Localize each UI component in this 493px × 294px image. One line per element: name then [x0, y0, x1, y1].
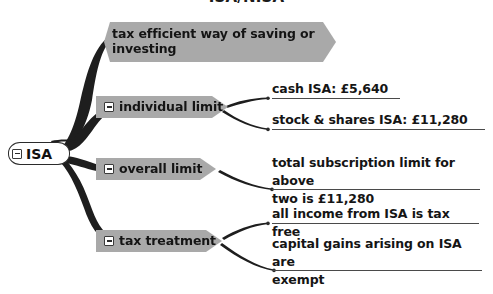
wire-endpoint-income — [266, 222, 270, 226]
branch-node-overall-limit[interactable]: overall limit — [96, 158, 216, 180]
tax-treatment-collapse-toggle-icon[interactable] — [104, 236, 114, 246]
leaf-total-subscription[interactable]: total subscription limit for above two i… — [272, 154, 480, 207]
branch-definition-label: tax efficient way of saving or investing — [112, 27, 336, 57]
wire-tax-to-capital — [220, 243, 274, 271]
leaf-capital-gains-exempt-text: capital gains arising on ISA are exempt — [272, 235, 482, 288]
branch-individual-inner: individual limit — [96, 96, 228, 118]
branch-individual-limit-label: individual limit — [119, 100, 223, 115]
leaf-total-subscription-text: total subscription limit for above two i… — [272, 154, 480, 207]
leaf-capital-gains-exempt[interactable]: capital gains arising on ISA are exempt — [272, 235, 482, 288]
leaf-stock-shares-isa[interactable]: stock & shares ISA: £11,280 — [272, 111, 485, 129]
individual-limit-collapse-toggle-icon[interactable] — [104, 102, 114, 112]
wire-individual-to-stock — [222, 110, 268, 130]
branch-overall-limit-label: overall limit — [119, 162, 202, 177]
wire-endpoint-stock — [266, 128, 270, 132]
branch-tax-treatment-label: tax treatment — [119, 234, 216, 249]
leaf-stock-shares-isa-text: stock & shares ISA: £11,280 — [272, 111, 485, 129]
diagram-title: ISA/NISA — [0, 0, 493, 6]
leaf-cash-isa-text: cash ISA: £5,640 — [272, 80, 400, 98]
branch-node-definition[interactable]: tax efficient way of saving or investing — [104, 22, 336, 62]
wire-individual-to-cash — [226, 97, 268, 108]
wire-endpoint-cash — [266, 96, 270, 100]
overall-limit-collapse-toggle-icon[interactable] — [104, 164, 114, 174]
root-node-isa[interactable]: ISA — [8, 142, 70, 165]
leaf-cash-isa[interactable]: cash ISA: £5,640 — [272, 80, 400, 98]
leaf-capital-gains-exempt-rule — [272, 270, 482, 271]
root-collapse-toggle-icon[interactable] — [12, 149, 22, 159]
branch-node-tax-treatment[interactable]: tax treatment — [96, 230, 222, 252]
branch-node-individual-limit[interactable]: individual limit — [96, 96, 228, 118]
root-node-label: ISA — [26, 147, 52, 161]
mindmap-canvas: ISA/NISA — [0, 0, 493, 294]
wire-tax-to-income — [222, 223, 268, 240]
leaf-stock-shares-isa-rule — [272, 129, 485, 130]
leaf-total-subscription-rule — [272, 189, 480, 190]
wire-overall-to-total — [218, 170, 272, 190]
branch-overall-inner: overall limit — [96, 158, 216, 180]
leaf-income-tax-free-rule — [272, 223, 479, 224]
leaf-cash-isa-rule — [272, 98, 400, 99]
branch-definition-inner: tax efficient way of saving or investing — [104, 22, 336, 62]
branch-tax-inner: tax treatment — [96, 230, 222, 252]
